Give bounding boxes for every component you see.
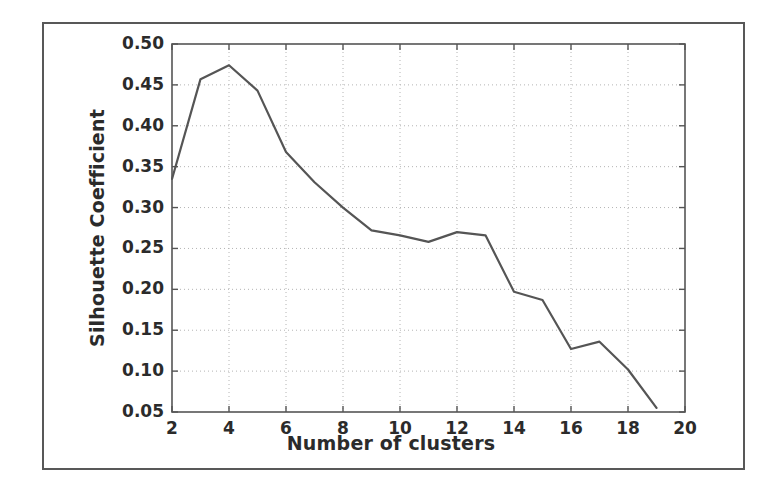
y-tick-label: 0.15 <box>100 319 164 339</box>
y-tick-label: 0.10 <box>100 360 164 380</box>
silhouette-coefficient-line <box>172 65 657 408</box>
y-tick-label: 0.50 <box>100 33 164 53</box>
axis-tick-marks <box>172 44 685 412</box>
y-tick-label: 0.30 <box>100 197 164 217</box>
y-tick-label: 0.20 <box>100 278 164 298</box>
x-axis-label: Number of clusters <box>0 432 782 454</box>
y-tick-label: 0.40 <box>100 115 164 135</box>
y-tick-label: 0.45 <box>100 74 164 94</box>
y-tick-label: 0.25 <box>100 237 164 257</box>
y-axis-label: Silhouette Coefficient <box>86 109 108 347</box>
plot-area-border <box>172 44 685 412</box>
y-tick-label: 0.35 <box>100 156 164 176</box>
grid-lines <box>172 44 685 412</box>
y-tick-label: 0.05 <box>100 401 164 421</box>
figure-page: 2468101214161820 0.050.100.150.200.250.3… <box>0 0 782 489</box>
